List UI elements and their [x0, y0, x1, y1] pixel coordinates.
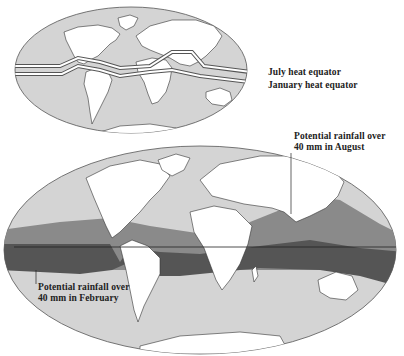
january-heat-equator-label: January heat equator [268, 80, 358, 91]
august-rainfall-label: Potential rainfall over 40 mm in August [294, 131, 385, 153]
august-rainfall-label-line1: Potential rainfall over [294, 131, 385, 142]
february-rainfall-label: Potential rainfall over 40 mm in Februar… [38, 282, 129, 304]
july-heat-equator-label: July heat equator [268, 67, 341, 78]
bottom-world-map [0, 146, 404, 354]
august-rainfall-label-line2: 40 mm in August [294, 142, 385, 153]
february-rainfall-label-line1: Potential rainfall over [38, 282, 129, 293]
february-rainfall-label-line2: 40 mm in February [38, 293, 129, 304]
top-world-map [14, 7, 250, 136]
